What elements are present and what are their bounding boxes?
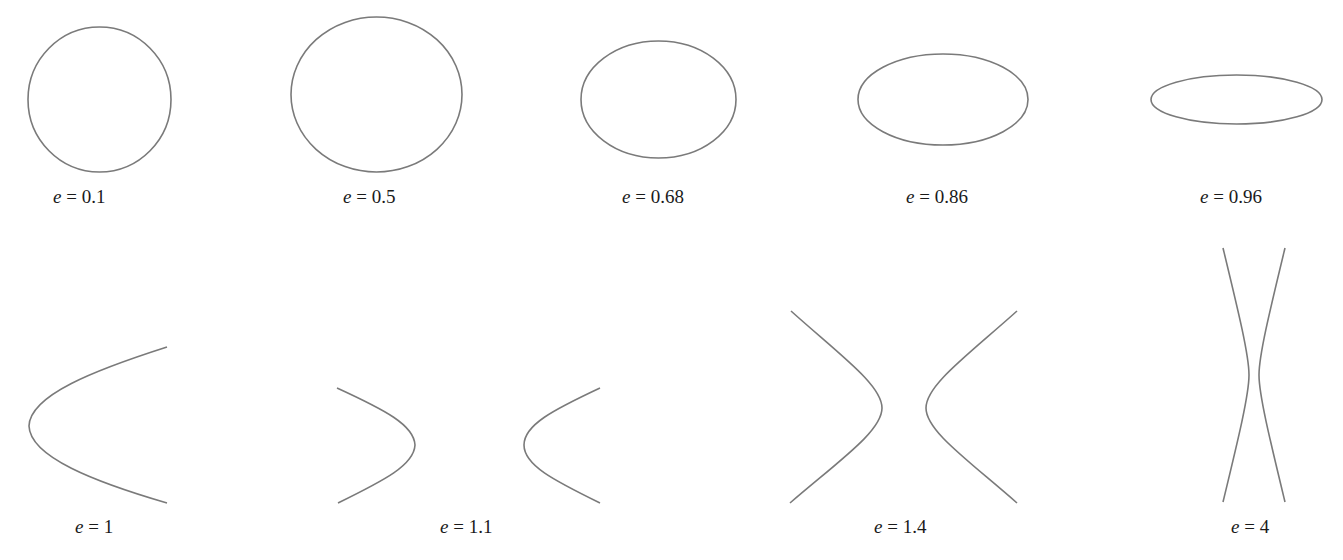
panel-e-1: e = 1: [29, 347, 167, 537]
panel-e-0.68: e = 0.68: [581, 41, 736, 207]
panel-e-1.1: e = 1.1: [337, 388, 600, 537]
eccentricity-label: e = 0.96: [1200, 186, 1262, 207]
panel-e-0.5: e = 0.5: [291, 17, 462, 207]
eccentricity-label: e = 1.4: [874, 516, 927, 537]
hyperbola-right-branch: [926, 311, 1017, 503]
hyperbola-left-branch: [337, 388, 415, 503]
hyperbola-right-branch: [524, 388, 600, 503]
eccentricity-label: e = 4: [1231, 516, 1270, 537]
panel-e-0.86: e = 0.86: [858, 54, 1028, 207]
parabola-curve: [29, 347, 167, 503]
hyperbola-left-branch: [1223, 248, 1249, 502]
ellipse-curve: [581, 41, 736, 158]
ellipse-curve: [291, 17, 462, 172]
panel-e-1.4: e = 1.4: [790, 311, 1017, 537]
eccentricity-label: e = 0.86: [906, 186, 968, 207]
conic-sections-figure: e = 0.1 e = 0.5 e = 0.68 e = 0.86 e = 0.…: [0, 0, 1343, 560]
eccentricity-label: e = 0.5: [343, 186, 395, 207]
hyperbola-right-branch: [1259, 248, 1285, 502]
ellipse-curve: [1151, 75, 1322, 124]
eccentricity-label: e = 1.1: [440, 516, 492, 537]
hyperbola-left-branch: [790, 311, 882, 503]
panel-e-0.96: e = 0.96: [1151, 75, 1322, 207]
eccentricity-label: e = 1: [75, 516, 113, 537]
ellipse-curve: [858, 54, 1028, 145]
eccentricity-label: e = 0.1: [53, 186, 105, 207]
panel-e-4: e = 4: [1223, 248, 1285, 537]
eccentricity-label: e = 0.68: [622, 186, 684, 207]
circle-curve: [28, 27, 171, 172]
panel-e-0.1: e = 0.1: [28, 27, 171, 207]
